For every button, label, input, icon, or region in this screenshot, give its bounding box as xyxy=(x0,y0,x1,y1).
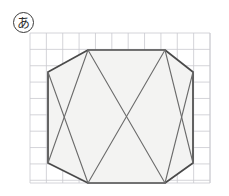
figure-page: あ xyxy=(0,0,229,196)
octagon-shape xyxy=(48,50,193,183)
geometry-figure xyxy=(0,0,229,196)
